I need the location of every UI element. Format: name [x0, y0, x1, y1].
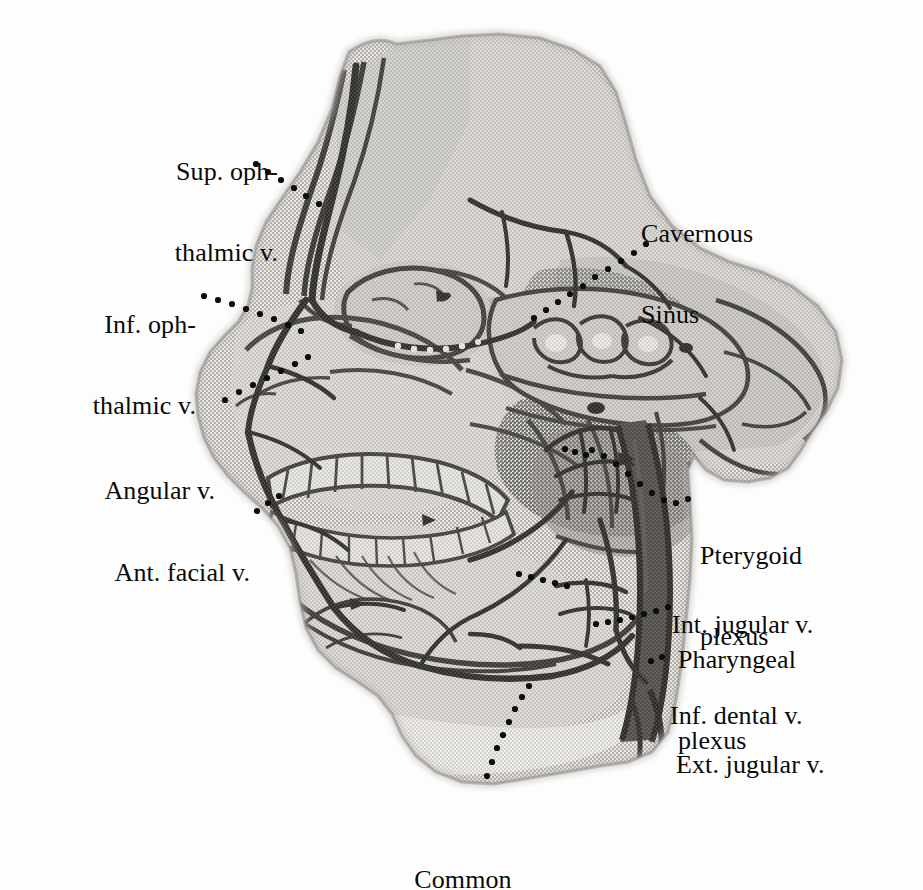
- label-ext-jugular-v: Ext. jugular v.: [676, 697, 825, 832]
- anatomy-figure-page: Sup. oph- thalmic v. Inf. oph- thalmic v…: [0, 0, 923, 890]
- label-line: Cavernous: [641, 220, 753, 247]
- label-line: Sup. oph-: [0, 158, 278, 185]
- label-line: Ext. jugular v.: [676, 751, 825, 778]
- label-line: Sinus: [641, 301, 753, 328]
- label-common-facial-v: Common facial v.: [373, 812, 553, 890]
- label-ant-facial-v: Ant. facial v.: [0, 505, 250, 640]
- label-line: Inf. oph-: [0, 311, 196, 338]
- label-line: Ant. facial v.: [0, 559, 250, 586]
- label-cavernous-sinus: Cavernous Sinus: [641, 166, 753, 382]
- label-line: Angular v.: [0, 477, 215, 504]
- label-line: thalmic v.: [0, 392, 196, 419]
- label-line: Common: [373, 866, 553, 890]
